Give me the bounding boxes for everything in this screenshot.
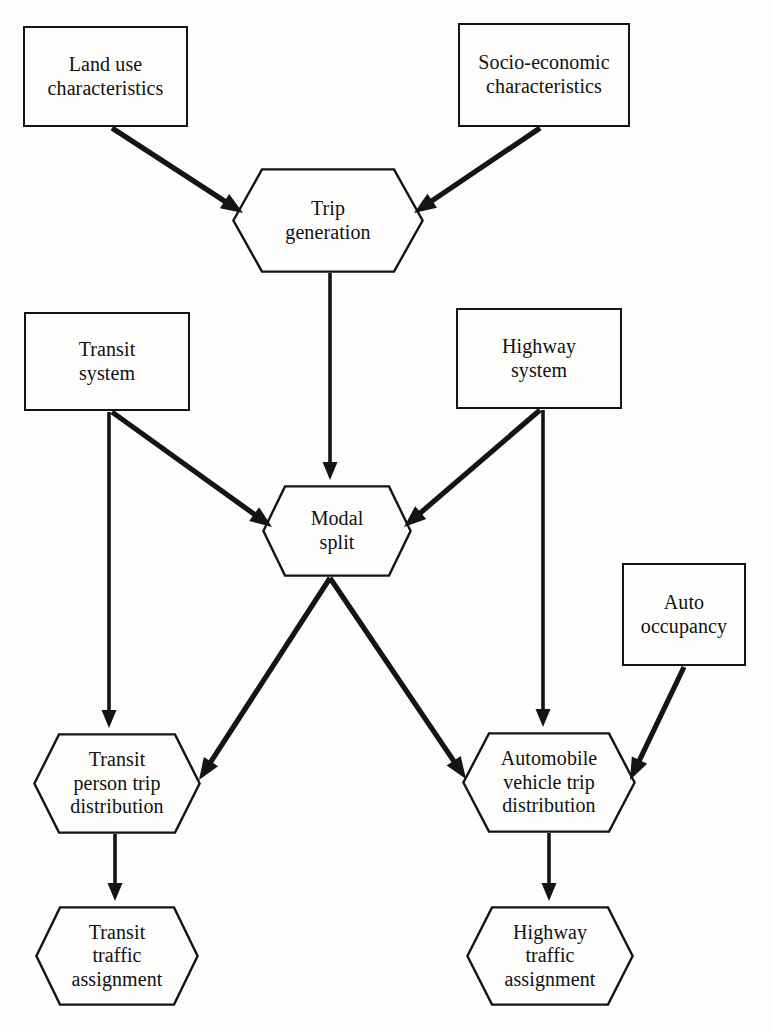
edge-modal-split-to-transit-person-trip-distribution: [199, 578, 330, 780]
node-highway-system: Highway system: [456, 308, 622, 409]
node-label-transit-person-trip-distribution: Transit person trip distribution: [66, 748, 167, 819]
node-label-highway-traffic-assignment: Highway traffic assignment: [501, 921, 600, 992]
arrowhead-icon: [102, 710, 117, 728]
flowchart-canvas: Land use characteristicsSocio-economic c…: [0, 0, 772, 1032]
node-land-use: Land use characteristics: [23, 26, 188, 127]
node-label-modal-split: Modal split: [307, 507, 368, 554]
node-transit-person-trip-distribution: Transit person trip distribution: [33, 733, 201, 834]
node-label-trip-generation: Trip generation: [281, 197, 374, 244]
node-trip-generation: Trip generation: [232, 168, 424, 273]
edge-transit-system-to-transit-person-trip-distribution: [102, 412, 117, 728]
node-label-socio-economic: Socio-economic characteristics: [474, 51, 613, 98]
edge-automobile-vehicle-trip-distribution-to-highway-traffic-assignment: [542, 833, 557, 901]
node-transit-traffic-assignment: Transit traffic assignment: [35, 906, 199, 1006]
arrowhead-icon: [536, 709, 551, 727]
node-label-auto-occupancy: Auto occupancy: [637, 591, 731, 638]
node-socio-economic: Socio-economic characteristics: [458, 23, 630, 127]
node-modal-split: Modal split: [262, 485, 412, 577]
node-transit-system: Transit system: [24, 312, 190, 411]
arrowhead-icon: [542, 883, 557, 901]
edge-land-use-to-trip-generation: [112, 128, 243, 213]
edge-trip-generation-to-modal-split: [323, 273, 338, 480]
edge-modal-split-to-automobile-vehicle-trip-distribution: [330, 578, 466, 779]
edge-highway-system-to-modal-split: [404, 410, 540, 527]
node-label-transit-traffic-assignment: Transit traffic assignment: [68, 921, 167, 992]
edge-line: [330, 578, 456, 764]
edge-line: [112, 128, 228, 203]
node-label-land-use: Land use characteristics: [44, 53, 168, 100]
node-auto-occupancy: Auto occupancy: [622, 563, 746, 666]
node-label-automobile-vehicle-trip-distribution: Automobile vehicle trip distribution: [497, 747, 602, 818]
node-automobile-vehicle-trip-distribution: Automobile vehicle trip distribution: [462, 732, 636, 833]
edge-transit-person-trip-distribution-to-transit-traffic-assignment: [108, 834, 123, 901]
node-highway-traffic-assignment: Highway traffic assignment: [466, 906, 634, 1006]
node-label-transit-system: Transit system: [75, 338, 140, 385]
edge-line: [209, 578, 330, 765]
arrowhead-icon: [108, 883, 123, 901]
edge-line: [429, 128, 540, 203]
edge-transit-system-to-modal-split: [112, 412, 272, 527]
edge-line: [418, 410, 540, 515]
edge-auto-occupancy-to-automobile-vehicle-trip-distribution: [630, 667, 684, 780]
arrowhead-icon: [199, 757, 218, 780]
edge-line: [638, 667, 684, 764]
edge-socio-economic-to-trip-generation: [414, 128, 540, 213]
node-label-highway-system: Highway system: [498, 335, 580, 382]
arrowhead-icon: [323, 462, 338, 480]
edge-line: [112, 412, 257, 516]
edge-highway-system-to-automobile-vehicle-trip-distribution: [536, 410, 551, 727]
